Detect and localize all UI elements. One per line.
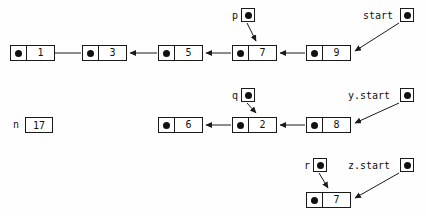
pointer-box-start <box>400 8 414 22</box>
arrow-zstart-to-n7b <box>355 173 399 198</box>
node-pointer-cell <box>233 118 249 132</box>
list-node-5: 5 <box>158 45 203 61</box>
node-value: 7 <box>323 193 350 207</box>
node-pointer-cell <box>307 118 323 132</box>
list-node-7: 7 <box>232 45 277 61</box>
node-value: 2 <box>249 118 276 132</box>
node-value: 8 <box>323 118 350 132</box>
node-pointer-cell <box>159 118 175 132</box>
pointer-label-ystart: y.start <box>348 91 390 101</box>
pointer-dot-icon <box>163 50 170 57</box>
pointer-dot-icon <box>15 50 22 57</box>
pointer-dot-icon <box>245 92 252 99</box>
node-pointer-cell <box>307 193 323 207</box>
node-pointer-cell <box>159 46 175 60</box>
pointer-dot-icon <box>404 12 411 19</box>
pointer-box-q <box>241 88 255 102</box>
pointer-box-ystart <box>400 88 414 102</box>
pointer-dot-icon <box>245 12 252 19</box>
pointer-dot-icon <box>163 122 170 129</box>
pointer-label-zstart: z.start <box>348 161 390 171</box>
node-pointer-cell <box>307 46 323 60</box>
pointer-dot-icon <box>237 50 244 57</box>
list-node-2: 2 <box>232 117 277 133</box>
arrow-ystart-to-n8 <box>355 103 399 123</box>
pointer-box-zstart <box>400 158 414 172</box>
pointer-dot-icon <box>404 162 411 169</box>
arrow-layer <box>0 0 426 216</box>
pointer-label-q: q <box>232 91 238 101</box>
arrow-r-to-n7b <box>319 173 328 188</box>
list-node-8: 8 <box>306 117 351 133</box>
pointer-dot-icon <box>311 50 318 57</box>
node-value: 6 <box>175 118 202 132</box>
list-node-6: 6 <box>158 117 203 133</box>
list-node-3: 3 <box>82 45 127 61</box>
pointer-label-p: p <box>232 11 238 21</box>
variable-box-n: 17 <box>25 117 53 133</box>
arrow-p-to-n7 <box>247 23 256 41</box>
pointer-dot-icon <box>317 162 324 169</box>
pointer-dot-icon <box>311 197 318 204</box>
pointer-dot-icon <box>404 92 411 99</box>
pointer-label-start: start <box>363 11 393 21</box>
pointer-dot-icon <box>311 122 318 129</box>
pointer-label-r: r <box>304 161 310 171</box>
node-value: 3 <box>99 46 126 60</box>
variable-value-n: 17 <box>33 120 45 131</box>
node-value: 1 <box>27 46 54 60</box>
node-value: 7 <box>249 46 276 60</box>
pointer-dot-icon <box>237 122 244 129</box>
node-pointer-cell <box>83 46 99 60</box>
node-pointer-cell <box>11 46 27 60</box>
list-node-7b: 7 <box>306 192 351 208</box>
arrow-start-to-n9 <box>355 23 399 51</box>
list-node-9: 9 <box>306 45 351 61</box>
node-value: 5 <box>175 46 202 60</box>
pointer-dot-icon <box>87 50 94 57</box>
pointer-box-r <box>313 158 327 172</box>
pointer-box-p <box>241 8 255 22</box>
variable-label-n: n <box>13 120 19 130</box>
node-pointer-cell <box>233 46 249 60</box>
list-node-1: 1 <box>10 45 55 61</box>
linked-list-diagram: 1 3 5 7 9 6 2 8 7 n 17 p start <box>0 0 426 216</box>
node-value: 9 <box>323 46 350 60</box>
arrow-q-to-n2 <box>247 103 256 113</box>
